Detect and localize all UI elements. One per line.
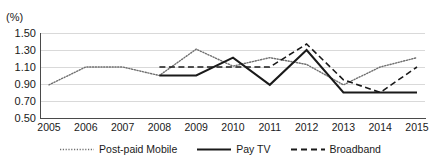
series-lines: [0, 0, 441, 162]
solid-line-swatch: [197, 145, 231, 154]
chart-legend: Post-paid Mobile Pay TV Broadband: [0, 139, 441, 159]
dotted-line-swatch: [60, 145, 94, 154]
legend-item-pay-tv[interactable]: Pay TV: [197, 143, 270, 155]
series-pay-tv: [159, 50, 417, 93]
legend-label: Post-paid Mobile: [99, 143, 177, 155]
legend-item-post-paid-mobile[interactable]: Post-paid Mobile: [60, 143, 177, 155]
series-post-paid-mobile: [49, 49, 417, 85]
legend-label: Pay TV: [236, 143, 270, 155]
line-chart: (%) 1.50 1.30 1.10 0.90 0.70 0.50 2005 2…: [0, 0, 441, 162]
x-tick-label: 2015: [392, 121, 441, 134]
legend-label: Broadband: [330, 143, 381, 155]
x-axis-labels: 2005 2006 2007 2008 2009 2010 2011 2012 …: [0, 121, 441, 135]
legend-item-broadband[interactable]: Broadband: [291, 143, 381, 155]
dashed-line-swatch: [291, 145, 325, 154]
